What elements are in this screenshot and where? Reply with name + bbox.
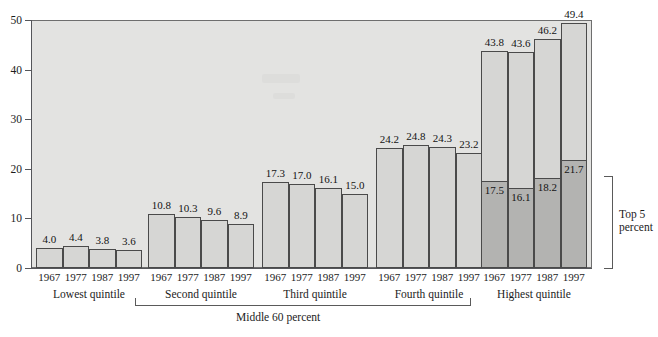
y-axis-line — [31, 20, 32, 269]
bar — [376, 148, 403, 268]
bar — [429, 147, 456, 268]
middle60-bracket-cap-left — [135, 298, 136, 306]
bar-segment-top5 — [561, 160, 588, 268]
top5-bracket-cap-top — [604, 176, 613, 177]
scan-artifact — [262, 74, 300, 83]
bar-value-label: 15.0 — [336, 180, 375, 191]
bar-value-label: 8.9 — [222, 210, 261, 221]
bar — [289, 184, 316, 268]
bar-value-label: 3.6 — [110, 236, 149, 247]
y-axis-tick — [25, 20, 32, 21]
top5-bracket-cap-bottom — [604, 268, 613, 269]
bar — [403, 145, 430, 268]
top5-bracket-line — [612, 176, 613, 268]
y-axis-tick — [25, 119, 32, 120]
x-axis-line — [31, 268, 592, 269]
bar-value-label: 49.4 — [555, 9, 594, 20]
y-axis-tick-label: 40 — [0, 64, 22, 76]
y-axis-tick-label: 30 — [0, 113, 22, 125]
bar-segment-value-label: 16.1 — [505, 192, 538, 203]
bar — [148, 214, 175, 268]
scan-artifact — [273, 93, 295, 99]
y-axis-tick-label: 20 — [0, 163, 22, 175]
y-axis-tick-label: 10 — [0, 212, 22, 224]
y-axis-tick-label: 0 — [0, 262, 22, 274]
x-axis-group-label: Highest quintile — [459, 288, 609, 300]
bar — [456, 153, 483, 268]
middle60-bracket-label: Middle 60 percent — [236, 311, 320, 324]
bar — [201, 220, 228, 268]
bar-segment-value-label: 21.7 — [558, 164, 591, 175]
bar — [228, 224, 255, 268]
bar — [342, 194, 369, 268]
x-axis-year-label: 1997 — [224, 272, 259, 283]
middle60-bracket-cap-right — [470, 298, 471, 306]
bar — [175, 217, 202, 268]
bar-segment-value-label: 18.2 — [531, 182, 564, 193]
bar — [315, 188, 342, 268]
bar — [262, 182, 289, 268]
x-axis-year-label: 1997 — [112, 272, 147, 283]
bar — [116, 250, 143, 268]
bar — [89, 249, 116, 268]
bar — [36, 248, 63, 268]
y-axis-tick-label: 50 — [0, 14, 22, 26]
y-axis-tick — [25, 218, 32, 219]
bar — [63, 246, 90, 268]
y-axis-tick — [25, 169, 32, 170]
x-axis-year-label: 1997 — [338, 272, 373, 283]
middle60-bracket-line — [135, 305, 471, 306]
top5-bracket-label: Top 5 percent — [619, 208, 658, 234]
y-axis-tick — [25, 70, 32, 71]
x-axis-year-label: 1997 — [557, 272, 592, 283]
